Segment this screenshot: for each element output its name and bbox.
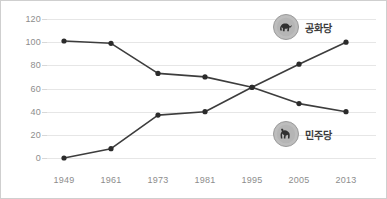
- elephant-icon: [273, 14, 299, 40]
- data-point[interactable]: [202, 74, 207, 79]
- series-democrat: [61, 38, 348, 114]
- data-point[interactable]: [343, 40, 348, 45]
- legend-republican-label: 공화당: [305, 20, 332, 35]
- data-point[interactable]: [343, 109, 348, 114]
- data-point[interactable]: [296, 101, 301, 106]
- data-point[interactable]: [108, 41, 113, 46]
- data-point[interactable]: [155, 113, 160, 118]
- data-point[interactable]: [249, 85, 254, 90]
- data-point[interactable]: [61, 155, 66, 160]
- donkey-icon: [273, 121, 299, 147]
- line-chart: 120 100 80 60 40 20 0 1949 1961 1973 198…: [0, 0, 387, 199]
- data-point[interactable]: [155, 71, 160, 76]
- legend-republican[interactable]: 공화당: [273, 14, 332, 40]
- data-point[interactable]: [108, 146, 113, 151]
- legend-democrat[interactable]: 민주당: [273, 121, 332, 147]
- data-point[interactable]: [296, 62, 301, 67]
- data-point[interactable]: [202, 109, 207, 114]
- data-point[interactable]: [61, 38, 66, 43]
- legend-democrat-label: 민주당: [305, 127, 332, 142]
